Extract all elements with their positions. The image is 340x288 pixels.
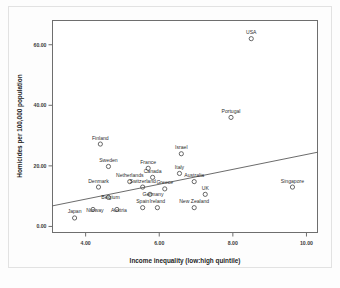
y-tick-label: 20.00 xyxy=(34,163,47,169)
point-label: Ireland xyxy=(150,198,166,204)
point-label: Finland xyxy=(92,135,109,141)
point-label: France xyxy=(140,159,156,165)
point-label: Greece xyxy=(156,179,173,185)
y-tick-label: 40.00 xyxy=(34,102,47,108)
point-label: UK xyxy=(202,185,210,191)
point-label: Sweden xyxy=(99,157,118,163)
x-tick-label: 8.00 xyxy=(228,240,238,246)
data-point: Austria xyxy=(111,207,127,213)
point-label: Israel xyxy=(175,144,187,150)
x-tick-label: 6.00 xyxy=(154,240,164,246)
point-label: Germany xyxy=(143,191,164,197)
data-point: Belgium xyxy=(101,194,119,200)
x-tick-label: 4.00 xyxy=(81,240,91,246)
point-label: Denmark xyxy=(88,178,109,184)
y-tick-label: 0.00 xyxy=(36,223,46,229)
point-label: New Zealand xyxy=(179,198,209,204)
y-axis-ticks: 0.0020.0040.0060.00 xyxy=(34,42,53,230)
point-label: Japan xyxy=(68,208,82,214)
x-tick-label: 10.00 xyxy=(300,240,313,246)
point-label: Switzerland xyxy=(130,178,156,184)
point-label: Canada xyxy=(144,168,162,174)
point-label: Spain xyxy=(136,198,149,204)
y-tick-label: 60.00 xyxy=(34,42,47,48)
plot-canvas: 4.006.008.0010.00 0.0020.0040.0060.00 US… xyxy=(0,0,340,288)
point-label: Singapore xyxy=(281,178,304,184)
point-label: USA xyxy=(246,29,257,35)
point-label: Austria xyxy=(111,207,127,213)
point-label: Portugal xyxy=(222,108,241,114)
data-point: Germany xyxy=(143,191,164,197)
point-label: Australia xyxy=(184,172,204,178)
scatter-plot-figure: 4.006.008.0010.00 0.0020.0040.0060.00 US… xyxy=(0,0,340,288)
x-axis-ticks: 4.006.008.0010.00 xyxy=(81,233,313,246)
point-label: Italy xyxy=(175,164,185,170)
point-label: Belgium xyxy=(101,194,119,200)
x-axis-title: Income inequality (low:high quintile) xyxy=(130,257,241,265)
data-point: Norway xyxy=(86,207,104,213)
y-axis-title: Homicides per 100,000 population xyxy=(16,74,24,177)
point-label: Norway xyxy=(86,207,104,213)
